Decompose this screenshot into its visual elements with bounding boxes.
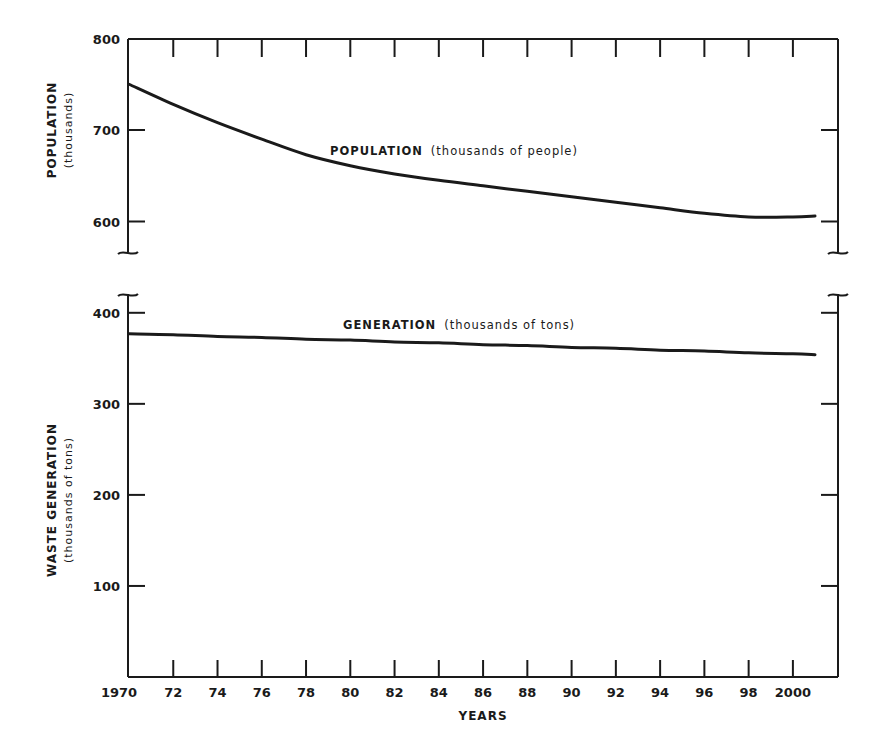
waste-axis-subtitle: (thousands of tons) [62, 437, 75, 563]
x-tick-label: 96 [695, 685, 713, 700]
x-axis-title: YEARS [457, 709, 507, 723]
x-tick-label: 88 [518, 685, 536, 700]
waste-axis-title: WASTE GENERATION [45, 423, 59, 577]
x-tick-label: 94 [651, 685, 669, 700]
population-label-main: POPULATION [330, 144, 423, 158]
x-tick-label: 86 [474, 685, 492, 700]
generation-line [129, 334, 815, 355]
x-tick-label: 84 [430, 685, 448, 700]
generation-series-label: GENERATION(thousands of tons) [343, 318, 575, 332]
x-tick-label: 80 [341, 685, 359, 700]
y-tick-label: 100 [93, 579, 120, 594]
x-tick-label: 92 [607, 685, 625, 700]
population-series-label: POPULATION(thousands of people) [330, 144, 578, 158]
x-tick-label: 82 [386, 685, 404, 700]
population-axis-subtitle: (thousands) [62, 92, 75, 169]
generation-label-main: GENERATION [343, 318, 436, 332]
axis-break-icon [828, 252, 848, 254]
chart-root: 600700800POPULATION(thousands)POPULATION… [0, 0, 875, 751]
x-tick-label: 2000 [775, 685, 811, 700]
y-tick-label: 300 [93, 397, 120, 412]
x-tick-label: 76 [253, 685, 271, 700]
y-tick-label: 800 [93, 32, 120, 47]
x-tick-label: 1970 [101, 685, 137, 700]
y-tick-label: 600 [93, 215, 120, 230]
x-tick-label: 98 [740, 685, 758, 700]
x-tick-label: 74 [208, 685, 226, 700]
y-tick-label: 200 [93, 488, 120, 503]
generation-label-sub: (thousands of tons) [444, 318, 575, 332]
x-tick-label: 72 [164, 685, 182, 700]
x-tick-label: 78 [297, 685, 315, 700]
axis-break-icon [828, 294, 848, 296]
x-tick-label: 90 [563, 685, 581, 700]
population-panel: 600700800POPULATION(thousands)POPULATION… [45, 32, 848, 255]
y-tick-label: 700 [93, 123, 120, 138]
chart-svg: 600700800POPULATION(thousands)POPULATION… [0, 0, 875, 751]
y-tick-label: 400 [93, 306, 120, 321]
axis-break-icon [118, 294, 138, 296]
axis-break-icon [118, 252, 138, 254]
waste-generation-panel: 1970727476788082848688909294969820001002… [45, 294, 848, 723]
population-axis-title: POPULATION [45, 82, 59, 178]
population-label-sub: (thousands of people) [431, 144, 578, 158]
